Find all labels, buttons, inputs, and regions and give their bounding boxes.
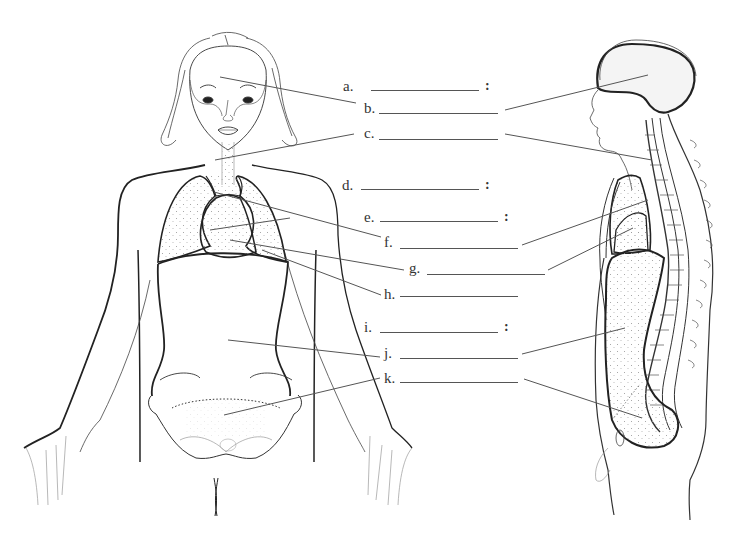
label-letter: c. [364,126,374,141]
answer-blank-c[interactable] [379,139,498,140]
label-letter: e. [364,210,374,225]
answer-blank-f[interactable] [400,248,518,249]
answer-blank-e[interactable] [380,221,498,222]
colon-mark: : [485,79,490,93]
label-letter: g. [409,261,420,276]
anatomy-worksheet: a. : b. c. d. : e. : f. g. h. i. : j. [0,0,753,536]
label-letter: h. [384,287,395,302]
label-letter: d. [342,178,353,193]
colon-mark: : [504,210,509,224]
leader-b-side [505,75,648,110]
colon-mark: : [504,320,509,334]
answer-blank-a[interactable] [371,90,479,91]
answer-blank-d[interactable] [361,189,479,190]
answer-blank-h[interactable] [400,296,518,297]
label-letter: k. [384,371,395,386]
leader-f-front-heart [210,218,290,230]
leader-g-front [230,240,404,270]
leader-c-side [505,134,652,160]
leader-f-side [522,200,648,245]
leader-h-front [262,250,381,295]
answer-blank-j[interactable] [400,358,518,359]
label-letter: b. [364,101,375,116]
answer-blank-g[interactable] [427,274,545,275]
leader-j-side [522,328,625,354]
leader-c-front [215,134,354,160]
label-letter: j. [384,346,392,361]
leader-lines [0,0,753,536]
leader-j-front [228,340,380,357]
answer-blank-b[interactable] [379,113,498,114]
leader-f-front [214,192,381,237]
leader-k-side [524,379,642,418]
leader-k-front [224,378,380,415]
label-letter: i. [364,320,372,335]
label-letter: f. [384,235,393,250]
leader-g-side [548,228,633,270]
leader-b-front [220,77,356,103]
answer-blank-i[interactable] [380,332,498,333]
label-letter: a. [343,79,353,94]
answer-blank-k[interactable] [400,382,518,383]
colon-mark: : [485,178,490,192]
